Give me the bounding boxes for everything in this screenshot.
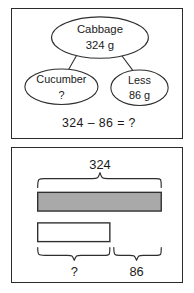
bubble-cabbage-name: Cabbage (77, 23, 123, 35)
bubble-cucumber-name: Cucumber (36, 73, 87, 85)
total-brace (38, 173, 162, 188)
bubble-cucumber-value: ? (58, 89, 64, 101)
part-bar (38, 223, 110, 242)
bar-model-panel: 324 ? 86 (11, 147, 183, 283)
difference-label: 86 (129, 264, 143, 279)
bubble-less-value: 86 g (129, 90, 150, 102)
bubble-cabbage-value: 324 g (86, 39, 114, 51)
difference-brace (114, 248, 161, 261)
connector-cabbage-to-cucumber (68, 54, 77, 70)
bubble-diagram-panel: Cabbage 324 g Cucumber ? Less 86 g 324 –… (11, 8, 183, 139)
unknown-part-brace (38, 248, 110, 261)
bubble-diagram-svg: Cabbage 324 g Cucumber ? Less 86 g 324 –… (12, 9, 182, 138)
whole-bar (38, 192, 162, 211)
equation-text: 324 – 86 = ? (62, 116, 136, 130)
connector-cabbage-to-less (121, 54, 133, 70)
bar-model-svg: 324 ? 86 (12, 148, 182, 282)
total-label: 324 (89, 157, 110, 172)
bubble-less-name: Less (128, 74, 152, 86)
unknown-part-label: ? (71, 264, 78, 279)
